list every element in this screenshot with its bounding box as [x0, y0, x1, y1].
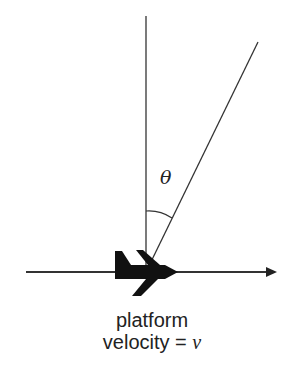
airplane-icon	[115, 250, 178, 296]
caption-velocity-prefix: velocity =	[103, 331, 192, 353]
angle-arc	[146, 211, 172, 218]
look-direction-line	[146, 42, 258, 272]
angle-theta-label: θ	[160, 166, 171, 188]
caption-velocity: velocity = v	[8, 331, 288, 353]
arrowhead-icon	[266, 267, 277, 277]
caption-velocity-variable: v	[192, 331, 201, 353]
caption-platform: platform	[8, 309, 288, 331]
